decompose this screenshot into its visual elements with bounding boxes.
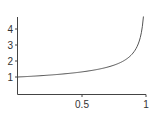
y-tick-label: 4 <box>7 24 13 35</box>
data-line <box>18 16 143 77</box>
y-tick-label: 2 <box>7 56 13 67</box>
x-axis: 0.51 <box>18 95 150 111</box>
line-chart: 1234 0.51 <box>0 0 156 114</box>
y-axis: 1234 <box>7 17 17 95</box>
x-tick-label: 1 <box>143 99 149 110</box>
x-tick-label: 0.5 <box>75 99 89 110</box>
y-tick-label: 3 <box>7 40 13 51</box>
y-tick-label: 1 <box>7 72 13 83</box>
